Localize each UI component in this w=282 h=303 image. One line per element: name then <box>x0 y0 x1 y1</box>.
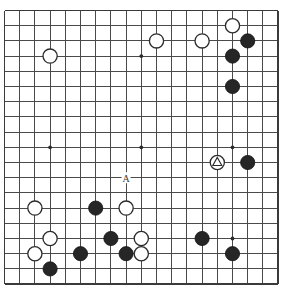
white-stone[interactable] <box>119 201 133 215</box>
white-stone[interactable] <box>149 34 163 48</box>
black-stone[interactable] <box>195 231 209 245</box>
black-stone[interactable] <box>241 34 255 48</box>
star-point <box>231 145 235 149</box>
white-stone[interactable] <box>28 247 42 261</box>
black-stone[interactable] <box>89 201 103 215</box>
star-point <box>139 145 143 149</box>
white-stone[interactable] <box>43 231 57 245</box>
white-stone[interactable] <box>195 34 209 48</box>
star-point <box>231 237 235 241</box>
star-point <box>139 54 143 58</box>
white-stone[interactable] <box>43 49 57 63</box>
black-stone[interactable] <box>241 155 255 169</box>
black-stone[interactable] <box>119 247 133 261</box>
black-stone[interactable] <box>225 49 239 63</box>
white-stone[interactable] <box>134 247 148 261</box>
white-stone[interactable] <box>134 231 148 245</box>
white-stone[interactable] <box>225 19 239 33</box>
black-stone[interactable] <box>225 79 239 93</box>
black-stone[interactable] <box>104 231 118 245</box>
point-label: A <box>122 173 130 184</box>
black-stone[interactable] <box>73 247 87 261</box>
go-board-canvas[interactable]: A <box>0 0 282 303</box>
star-point <box>48 145 52 149</box>
labels-layer: A <box>122 172 131 184</box>
black-stone[interactable] <box>225 247 239 261</box>
go-board-diagram: A <box>0 0 282 303</box>
white-stone[interactable] <box>28 201 42 215</box>
black-stone[interactable] <box>43 262 57 276</box>
